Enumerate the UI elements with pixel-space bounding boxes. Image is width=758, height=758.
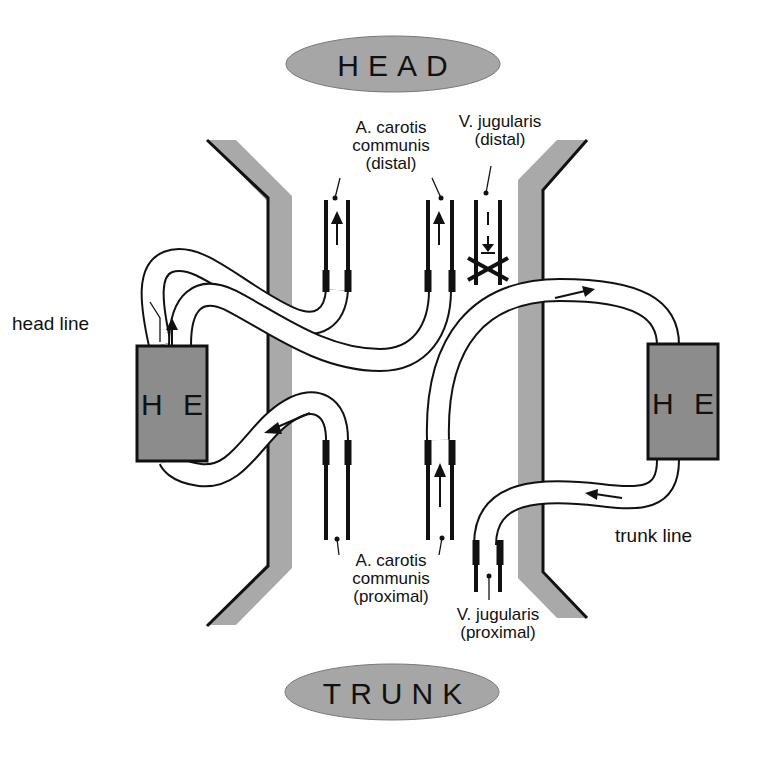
svg-text:communis: communis bbox=[352, 136, 429, 155]
head-oval: HEAD bbox=[286, 36, 500, 92]
carotis-distal-left-vessel bbox=[326, 196, 348, 293]
svg-text:A. carotis: A. carotis bbox=[356, 551, 427, 570]
trunk-label: TRUNK bbox=[323, 677, 471, 710]
jugularis-distal-label: V. jugularis (distal) bbox=[459, 112, 542, 149]
carotis-proximal-right-vessel bbox=[428, 440, 452, 541]
left-neck-wall bbox=[207, 140, 292, 626]
svg-text:V. jugularis: V. jugularis bbox=[457, 605, 540, 624]
right-neck-wall bbox=[518, 140, 587, 618]
carotis-proximal-label: A. carotis communis (proximal) bbox=[352, 551, 429, 606]
svg-text:(proximal): (proximal) bbox=[460, 623, 536, 642]
left-heat-exchanger: H E bbox=[137, 346, 209, 461]
svg-text:A. carotis: A. carotis bbox=[356, 118, 427, 137]
carotis-distal-right-vessel bbox=[428, 196, 452, 293]
jugularis-proximal-label: V. jugularis (proximal) bbox=[457, 605, 540, 642]
trunk-line-outflow-tube bbox=[438, 290, 668, 440]
right-he-label: H E bbox=[652, 387, 720, 420]
carotis-distal-label: A. carotis communis (distal) bbox=[352, 118, 429, 173]
carotis-proximal-left-vessel bbox=[326, 440, 348, 542]
svg-text:(distal): (distal) bbox=[474, 130, 525, 149]
svg-text:(distal): (distal) bbox=[365, 154, 416, 173]
svg-text:(proximal): (proximal) bbox=[353, 587, 429, 606]
trunk-oval: TRUNK bbox=[285, 664, 499, 720]
head-line-label: head line bbox=[12, 313, 89, 334]
jugularis-proximal-vessel bbox=[476, 540, 500, 592]
svg-text:communis: communis bbox=[352, 569, 429, 588]
jugularis-distal-vessel bbox=[468, 191, 508, 286]
left-he-label: H E bbox=[141, 388, 209, 421]
svg-text:V. jugularis: V. jugularis bbox=[459, 112, 542, 131]
trunk-line-label: trunk line bbox=[615, 525, 692, 546]
perfusion-diagram: HEAD TRUNK H E H E bbox=[0, 0, 758, 758]
head-label: HEAD bbox=[337, 49, 456, 82]
right-heat-exchanger: H E bbox=[648, 344, 720, 459]
